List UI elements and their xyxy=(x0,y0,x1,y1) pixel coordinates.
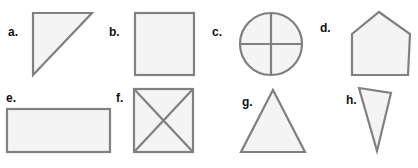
square-with-diagonals-shape xyxy=(130,86,198,156)
square-shape xyxy=(132,10,198,80)
shape-label-c: c. xyxy=(212,26,222,38)
shape-label-b: b. xyxy=(109,26,120,38)
shape-label-a: a. xyxy=(8,26,18,38)
shape-label-d: d. xyxy=(320,22,331,34)
shapes-worksheet: a. b. c. d. e. f. xyxy=(0,0,418,168)
equilateral-triangle-shape xyxy=(234,86,312,156)
right-triangle-shape xyxy=(30,10,98,80)
narrow-triangle-shape xyxy=(352,84,400,156)
pentagon-shape xyxy=(344,8,414,80)
shape-label-f: f. xyxy=(116,92,123,104)
circle-with-cross-shape xyxy=(236,8,306,80)
rectangle-shape xyxy=(4,106,114,156)
shape-label-e: e. xyxy=(6,92,16,104)
